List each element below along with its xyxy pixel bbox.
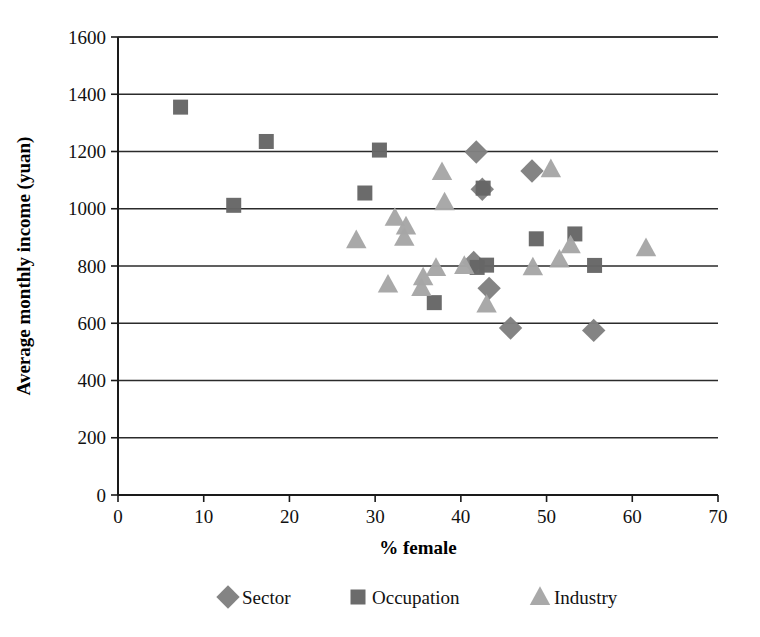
- x-tick-label-70: 70: [709, 506, 728, 527]
- point-occupation-9: [587, 258, 602, 273]
- point-occupation-5: [476, 181, 491, 196]
- point-occupation-0: [173, 100, 188, 115]
- chart-legend: SectorOccupationIndustry: [216, 585, 618, 608]
- y-tick-label-600: 600: [78, 313, 107, 334]
- y-tick-label-800: 800: [78, 256, 107, 277]
- y-tick-label-1200: 1200: [68, 141, 106, 162]
- x-tick-label-20: 20: [280, 506, 299, 527]
- x-axis-title: % female: [379, 537, 457, 558]
- x-tick-label-0: 0: [113, 506, 123, 527]
- scatter-chart-figure: 02004006008001000120014001600 0102030405…: [0, 0, 760, 637]
- point-occupation-6: [529, 231, 544, 246]
- point-occupation-2: [372, 143, 387, 158]
- x-tick-label-40: 40: [451, 506, 470, 527]
- legend-marker-occupation: [351, 590, 366, 605]
- point-occupation-10: [427, 295, 442, 310]
- y-tick-label-400: 400: [78, 370, 107, 391]
- legend-item-sector: Sector: [216, 585, 291, 608]
- x-tick-label-50: 50: [537, 506, 556, 527]
- y-tick-label-1400: 1400: [68, 84, 106, 105]
- y-tick-label-1600: 1600: [68, 27, 106, 48]
- y-tick-label-1000: 1000: [68, 198, 106, 219]
- x-tick-label-30: 30: [366, 506, 385, 527]
- point-occupation-4: [226, 198, 241, 213]
- y-tick-label-0: 0: [97, 485, 107, 506]
- legend-label-occupation: Occupation: [372, 587, 460, 608]
- chart-canvas: 02004006008001000120014001600 0102030405…: [0, 0, 760, 637]
- point-occupation-3: [357, 186, 372, 201]
- legend-label-sector: Sector: [242, 587, 291, 608]
- y-tick-label-200: 200: [78, 427, 107, 448]
- x-tick-label-60: 60: [623, 506, 642, 527]
- y-axis-title: Average monthly income (yuan): [13, 137, 35, 396]
- point-occupation-1: [259, 134, 274, 149]
- legend-label-industry: Industry: [554, 587, 618, 608]
- x-tick-label-10: 10: [194, 506, 213, 527]
